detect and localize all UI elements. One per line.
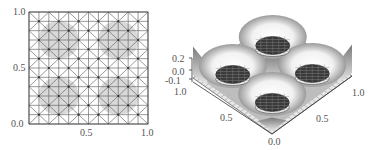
axis2-tick-1.0: 1.0 (352, 88, 365, 98)
axis2-tick-0.5: 0.5 (316, 114, 329, 124)
axis1-tick-0.5: 0.5 (220, 113, 233, 123)
x-tick-1.0: 1.0 (141, 128, 154, 138)
y-tick-0.5: 0.5 (13, 63, 26, 73)
mesh-plot (0, 0, 372, 150)
axis1-tick-0.0: 0.0 (268, 137, 281, 147)
x-tick-0.5: 0.5 (80, 128, 93, 138)
y-tick-0.0: 0.0 (11, 119, 24, 129)
z-tick-minus-0.1: -0.1 (165, 76, 181, 86)
z-tick-0.2: 0.2 (172, 54, 185, 64)
axis1-tick-1.0: 1.0 (174, 87, 187, 97)
figure: 1.0 0.5 0.0 0.5 1.0 0.2 0.0 -0.1 1.0 0.5… (0, 0, 372, 150)
y-tick-1.0: 1.0 (13, 7, 26, 17)
